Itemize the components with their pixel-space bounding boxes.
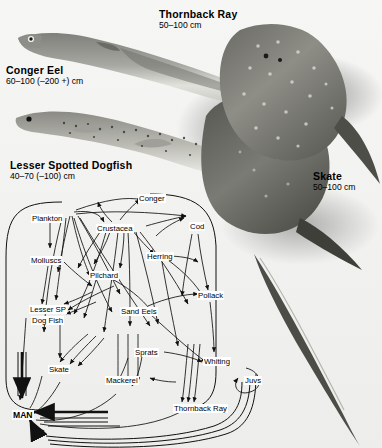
node-plankton[interactable]: Plankton: [31, 214, 63, 223]
node-sand-eels[interactable]: Sand Eels: [120, 307, 158, 316]
node-conger[interactable]: Conger: [138, 194, 166, 203]
label-thornback-ray: Thornback Ray 50–100 cm: [159, 8, 237, 31]
food-web-diagram: Conger Plankton Crustacea Cod Molluscs H…: [0, 186, 260, 448]
label-conger-eel: Conger Eel 60–100 (–200 +) cm: [6, 64, 83, 87]
node-lesser-sp[interactable]: Lesser SP: [29, 305, 67, 314]
conger-eel-size: 60–100 (–200 +) cm: [6, 76, 83, 86]
node-pilchard[interactable]: Pilchard: [89, 271, 119, 280]
thornback-ray-size: 50–100 cm: [159, 20, 237, 30]
thornback-ray-illustration: [206, 16, 382, 206]
conger-eel-name: Conger Eel: [6, 64, 83, 76]
node-pollack[interactable]: Pollack: [197, 291, 224, 300]
node-herring[interactable]: Herring: [146, 252, 174, 261]
thornback-ray-name: Thornback Ray: [159, 8, 237, 20]
label-lesser-spotted-dogfish: Lesser Spotted Dogfish 40–70 (–100) cm: [10, 159, 132, 182]
node-thornback-ray[interactable]: Thornback Ray: [173, 404, 228, 413]
node-cod[interactable]: Cod: [189, 222, 205, 231]
node-skate[interactable]: Skate: [48, 365, 70, 374]
skate-size: 50–100 cm: [313, 182, 356, 192]
lesser-spotted-dogfish-size: 40–70 (–100) cm: [10, 171, 132, 181]
skate-name: Skate: [313, 170, 356, 182]
label-skate: Skate 50–100 cm: [313, 170, 356, 193]
node-juvs[interactable]: Juvs: [244, 376, 262, 385]
ray-tail-illustration: [250, 250, 382, 448]
lesser-spotted-dogfish-name: Lesser Spotted Dogfish: [10, 159, 132, 171]
node-sprats[interactable]: Sprats: [134, 348, 159, 357]
node-dog-fish[interactable]: Dog Fish: [31, 316, 64, 325]
figure-root: Thornback Ray 50–100 cm Conger Eel 60–10…: [0, 0, 382, 448]
node-mackerel[interactable]: Mackerel: [105, 376, 139, 385]
node-molluscs[interactable]: Molluscs: [30, 256, 62, 265]
node-crustacea[interactable]: Crustacea: [96, 224, 134, 233]
node-man[interactable]: MAN: [12, 410, 34, 420]
node-whiting[interactable]: Whiting: [203, 357, 231, 366]
